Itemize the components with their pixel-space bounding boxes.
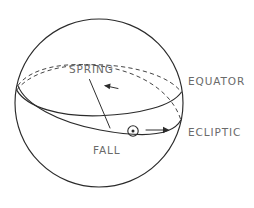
celestial-sphere-figure: SPRING EQUATOR ECLIPTIC FALL [0,0,254,208]
label-fall: FALL [93,144,121,156]
label-equator: EQUATOR [188,75,245,87]
arrow-left-icon [104,84,110,90]
label-ecliptic: ECLIPTIC [188,126,241,138]
label-spring: SPRING [69,63,114,75]
sun-symbol-center-dot [132,130,135,133]
celestial-sphere-drawing [0,0,254,208]
arrow-right-icon [163,127,170,134]
ecliptic-front-arc [18,86,181,135]
